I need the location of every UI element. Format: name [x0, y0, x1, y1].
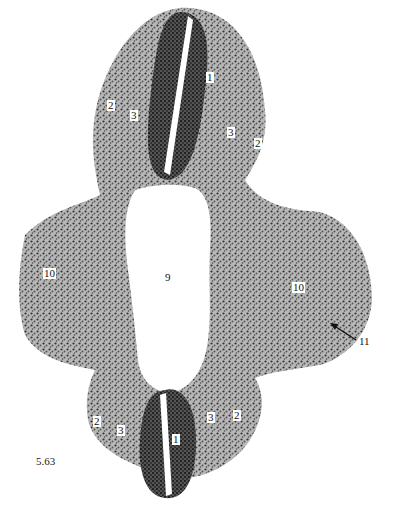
central-cavity — [125, 185, 210, 393]
label-top-left-3: 3 — [130, 110, 138, 121]
label-top-right-3: 3 — [227, 127, 235, 138]
label-top-left-2: 2 — [107, 100, 115, 111]
label-bottom-right-3: 3 — [207, 412, 215, 423]
figure-number: 5.63 — [36, 455, 55, 467]
label-neural-tube-bottom: 1 — [172, 434, 180, 445]
label-left-10: 10 — [43, 268, 56, 279]
label-cavity-9: 9 — [164, 272, 172, 283]
label-top-right-2: 2 — [254, 138, 262, 149]
label-neural-tube-top: 1 — [206, 72, 214, 83]
micrograph: 1 2 3 3 2 9 10 10 11 1 2 3 3 2 5.63 — [0, 0, 398, 509]
tissue-section — [0, 0, 398, 509]
label-bottom-right-2: 2 — [233, 410, 241, 421]
label-right-10: 10 — [292, 282, 305, 293]
label-bottom-left-3: 3 — [117, 425, 125, 436]
label-11: 11 — [358, 336, 371, 347]
label-bottom-left-2: 2 — [93, 416, 101, 427]
